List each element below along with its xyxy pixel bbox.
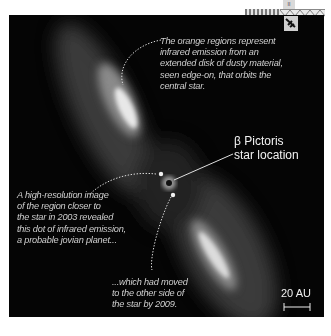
telescope-icon: [284, 16, 298, 31]
annotation-planet-2003: A high-resolution image of the region cl…: [17, 190, 126, 246]
annotation-line: of the region closer to: [17, 201, 126, 212]
header-marker-tab: II: [283, 0, 295, 9]
annotation-line: a probable jovian planet...: [17, 235, 126, 246]
annotation-line: the star in 2003 revealed: [17, 212, 126, 223]
annotation-line: this dot of infrared emission,: [17, 224, 126, 235]
infrared-image-panel: The orange regions represent infrared em…: [9, 15, 324, 317]
annotation-line: extended disk of dusty material,: [160, 58, 283, 69]
star-location-label: β Pictoris star location: [234, 135, 299, 162]
annotation-line: ...which had moved: [112, 277, 188, 288]
scale-bar-label: 20 AU: [281, 287, 311, 299]
star-location-text: star location: [234, 149, 299, 163]
star-name: Pictoris: [244, 134, 283, 148]
annotation-line: central star.: [160, 81, 283, 92]
annotation-line: The orange regions represent: [160, 36, 283, 47]
annotation-line: to the other side of: [112, 288, 188, 299]
annotation-line: infrared emission from an: [160, 47, 283, 58]
annotation-line: A high-resolution image: [17, 190, 126, 201]
beta-symbol: β: [234, 134, 241, 148]
annotation-planet-2009: ...which had moved to the other side of …: [112, 277, 188, 311]
annotation-line: the star by 2009.: [112, 299, 188, 310]
annotation-line: seen edge-on, that orbits the: [160, 70, 283, 81]
annotation-disk: The orange regions represent infrared em…: [160, 36, 283, 92]
